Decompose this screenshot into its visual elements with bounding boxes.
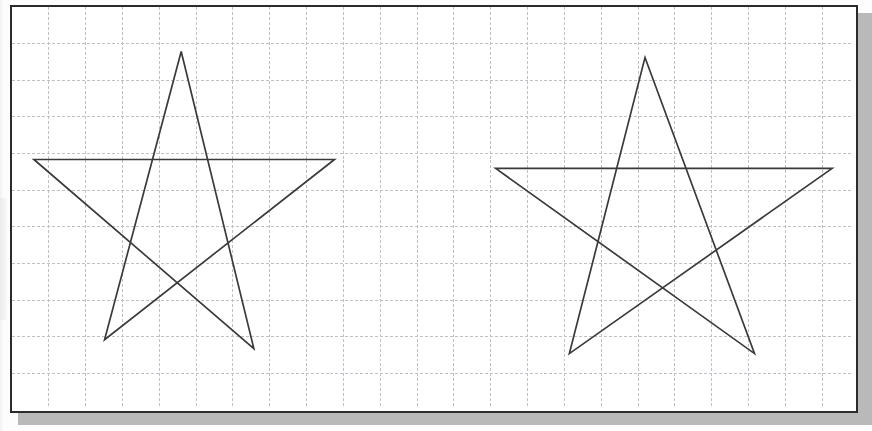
scan-edge-smudge	[0, 198, 7, 320]
stars-layer	[12, 7, 856, 411]
star-shapes	[34, 52, 832, 354]
star-left	[34, 52, 335, 349]
figure-frame	[10, 5, 858, 413]
scanned-page	[0, 0, 872, 431]
star-right	[496, 58, 832, 354]
